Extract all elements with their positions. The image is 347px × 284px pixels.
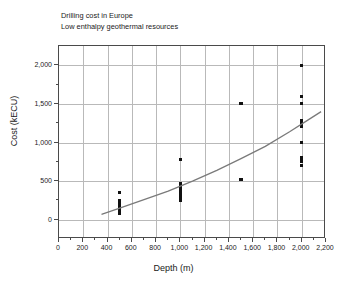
x-tick-mark — [228, 238, 229, 242]
x-tick-mark-minor — [143, 238, 144, 240]
x-tick-label: 2,200 — [316, 244, 334, 251]
x-tick-mark-minor — [94, 238, 95, 240]
y-tick-mark — [54, 103, 58, 104]
y-tick-mark — [54, 142, 58, 143]
chart-subtitle: Low enthalpy geothermal resources — [61, 21, 178, 32]
trend-line — [59, 46, 326, 239]
x-tick-mark — [131, 238, 132, 242]
x-tick-mark — [301, 238, 302, 242]
plot-area — [58, 45, 325, 238]
x-tick-mark-minor — [264, 238, 265, 240]
x-tick-label: 1,000 — [171, 244, 189, 251]
x-tick-mark-minor — [313, 238, 314, 240]
x-tick-label: 1,400 — [219, 244, 237, 251]
x-tick-mark — [107, 238, 108, 242]
y-tick-mark-minor — [56, 122, 58, 123]
y-tick-mark — [54, 64, 58, 65]
x-tick-label: 1,800 — [268, 244, 286, 251]
x-tick-mark-minor — [167, 238, 168, 240]
x-tick-mark — [155, 238, 156, 242]
x-tick-mark — [276, 238, 277, 242]
x-tick-mark — [325, 238, 326, 242]
chart-figure: Drilling cost in Europe Low enthalpy geo… — [0, 0, 347, 284]
x-tick-label: 600 — [125, 244, 137, 251]
x-tick-mark — [179, 238, 180, 242]
x-tick-label: 1,200 — [195, 244, 213, 251]
y-axis-title: Cost (kECU) — [9, 61, 19, 181]
x-axis-title: Depth (m) — [0, 263, 347, 273]
y-tick-mark — [54, 180, 58, 181]
x-tick-label: 800 — [149, 244, 161, 251]
y-tick-mark-minor — [56, 199, 58, 200]
x-tick-label: 400 — [101, 244, 113, 251]
x-tick-label: 200 — [76, 244, 88, 251]
x-tick-mark — [204, 238, 205, 242]
x-tick-mark — [252, 238, 253, 242]
x-tick-mark-minor — [70, 238, 71, 240]
x-tick-label: 1,600 — [243, 244, 261, 251]
chart-title-block: Drilling cost in Europe Low enthalpy geo… — [61, 10, 178, 32]
chart-title: Drilling cost in Europe — [61, 10, 178, 21]
x-tick-mark — [58, 238, 59, 242]
x-tick-mark-minor — [289, 238, 290, 240]
y-tick-label: 0 — [10, 215, 52, 222]
y-tick-mark-minor — [56, 161, 58, 162]
x-tick-mark-minor — [240, 238, 241, 240]
y-tick-mark — [54, 219, 58, 220]
x-tick-mark — [82, 238, 83, 242]
x-tick-mark-minor — [192, 238, 193, 240]
x-tick-label: 2,000 — [292, 244, 310, 251]
y-tick-mark-minor — [56, 84, 58, 85]
x-tick-mark-minor — [119, 238, 120, 240]
x-tick-label: 0 — [56, 244, 60, 251]
x-tick-mark-minor — [216, 238, 217, 240]
